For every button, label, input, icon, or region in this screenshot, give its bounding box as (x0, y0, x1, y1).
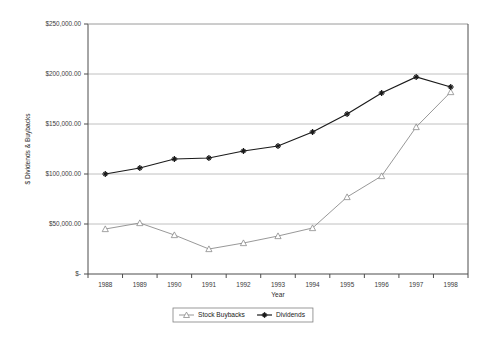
y-axis-tick-label: $150,000.00 (45, 120, 81, 127)
y-axis-tick-label: $100,000.00 (45, 170, 81, 177)
y-axis-tick-labels: $-$50,000.00$100,000.00$150,000.00$200,0… (45, 20, 81, 277)
x-axis-tick-label: 1988 (98, 281, 113, 288)
x-axis-tick-label: 1995 (340, 281, 355, 288)
x-axis-tick-label: 1993 (271, 281, 286, 288)
y-axis-tick-label: $250,000.00 (45, 20, 81, 27)
x-axis-tick-label: 1992 (236, 281, 251, 288)
x-axis-tick-label: 1998 (444, 281, 459, 288)
y-axis-tick-label: $50,000.00 (49, 220, 81, 227)
line-chart: $-$50,000.00$100,000.00$150,000.00$200,0… (0, 0, 486, 339)
legend-item-label: Dividends (276, 311, 306, 318)
x-axis-tick-label: 1991 (202, 281, 217, 288)
y-axis-tick-label: $200,000.00 (45, 70, 81, 77)
x-axis-tick-label: 1994 (305, 281, 320, 288)
y-axis-title: $ Dividends & Buybacks (24, 113, 32, 185)
chart-container: $-$50,000.00$100,000.00$150,000.00$200,0… (0, 0, 486, 339)
x-axis-tick-labels: 1988198919901991199219931994199519961997… (98, 281, 458, 288)
legend-item-2[interactable]: Dividends (257, 311, 306, 318)
x-axis-tick-label: 1989 (133, 281, 148, 288)
legend-item-label: Stock Buybacks (198, 311, 246, 319)
x-axis-tick-label: 1997 (409, 281, 424, 288)
y-axis-tick-label: $- (75, 270, 81, 277)
x-axis-title: Year (271, 291, 285, 298)
chart-legend: Stock BuybacksDividends (173, 308, 313, 322)
y-axis-ticks (84, 24, 88, 274)
x-axis-ticks (88, 274, 468, 278)
x-axis-tick-label: 1996 (375, 281, 390, 288)
x-axis-tick-label: 1990 (167, 281, 182, 288)
